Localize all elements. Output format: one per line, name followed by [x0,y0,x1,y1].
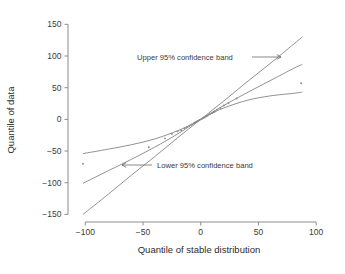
data-point [148,146,150,148]
y-tick-label: −100 [42,178,61,188]
y-tick-label: −50 [47,146,62,156]
upper-band-annotation-label: Upper 95% confidence band [137,53,233,62]
x-tick-label: −100 [76,227,95,237]
data-point [214,111,216,113]
data-point [171,133,173,135]
plot-curves [83,37,302,214]
data-point [207,115,209,117]
x-axis-title: Quantile of stable distribution [138,244,261,255]
y-tick-group: −150−100−50050100150 [42,19,68,219]
y-tick-label: −150 [42,209,61,219]
x-tick-label: −50 [136,227,151,237]
x-axis: −100−50050100 [76,222,324,237]
x-tick-label: 100 [309,227,323,237]
data-point [219,107,221,109]
data-point [186,126,188,128]
lower-confidence-band-curve [83,92,302,153]
data-point [191,123,193,125]
data-point [227,102,229,104]
y-tick-label: 0 [57,114,62,124]
x-tick-label: 50 [254,227,264,237]
y-tick-label: 50 [52,83,62,93]
x-tick-label: 0 [198,227,203,237]
data-point-group [82,82,302,164]
y-axis: −150−100−50050100150 [42,19,68,219]
lower-band-arrow-icon [122,163,152,168]
data-point [82,163,84,165]
qq-plot-figure: −150−100−50050100150 −100−50050100 Upper… [0,0,345,274]
data-point [300,82,302,84]
data-point [184,127,186,129]
data-point [209,113,211,115]
lower-band-annotation-label: Lower 95% confidence band [157,161,253,170]
data-point [180,129,182,131]
data-point [211,112,213,114]
data-point [216,109,218,111]
reference-line [83,37,302,214]
annotations-group: Upper 95% confidence band Lower 95% conf… [122,53,281,170]
data-point [236,98,238,100]
data-point [164,137,166,139]
x-tick-group: −100−50050100 [76,222,324,237]
data-point [188,125,190,127]
y-tick-label: 150 [47,19,61,29]
y-axis-title: Quantile of data [5,86,16,154]
y-tick-label: 100 [47,51,61,61]
chart-canvas: −150−100−50050100150 −100−50050100 Upper… [0,0,345,274]
data-point [223,104,225,106]
data-point [177,130,179,132]
